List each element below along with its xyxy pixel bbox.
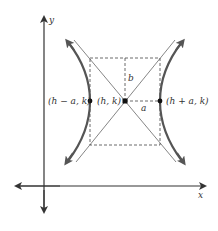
- right-vertex-label: (h + a, k): [166, 96, 209, 106]
- a-label: a: [141, 103, 146, 113]
- left-vertex-label: (h − a, k): [48, 96, 91, 106]
- y-axis-label: y: [48, 15, 55, 25]
- hyperbola-diagram: y x (h − a, k) (h, k) (h + a, k) b a: [0, 0, 218, 231]
- x-axis-label: x: [198, 190, 203, 200]
- right-vertex-point: [158, 99, 163, 104]
- b-label: b: [128, 73, 134, 83]
- center-point: [123, 99, 128, 104]
- center-label: (h, k): [97, 96, 121, 106]
